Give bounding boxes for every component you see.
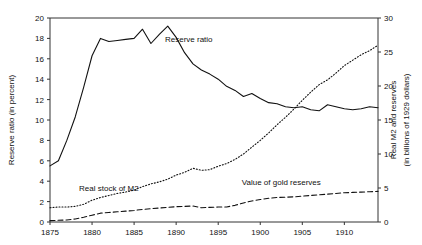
x-tick-label: 1910 xyxy=(335,228,353,237)
right-tick-label: 25 xyxy=(384,48,393,57)
tick-labels: 0246810121416182005101520253018751880188… xyxy=(35,14,393,237)
right-tick-label: 15 xyxy=(384,116,393,125)
left-tick-label: 12 xyxy=(35,96,44,105)
left-axis-title: Reserve ratio (in percent) xyxy=(7,75,16,166)
x-tick-label: 1875 xyxy=(41,228,59,237)
right-tick-label: 0 xyxy=(384,218,389,227)
left-tick-label: 14 xyxy=(35,75,44,84)
right-tick-label: 20 xyxy=(384,82,393,91)
left-tick-label: 2 xyxy=(40,198,45,207)
series-label-value-of-gold-reserves: Value of gold reserves xyxy=(242,178,321,187)
series-annotations: Reserve ratioReal stock of M2Value of go… xyxy=(79,35,321,192)
right-axis-title-line2: (in billions of 1929 dollars) xyxy=(402,73,411,166)
x-tick-label: 1880 xyxy=(83,228,101,237)
series-line-value-of-gold-reserves xyxy=(50,191,378,220)
left-tick-label: 8 xyxy=(40,136,45,145)
left-tick-label: 18 xyxy=(35,34,44,43)
x-tick-label: 1890 xyxy=(167,228,185,237)
series-label-real-stock-of-m2: Real stock of M2 xyxy=(79,184,139,193)
right-tick-label: 5 xyxy=(384,184,389,193)
left-tick-label: 20 xyxy=(35,14,44,23)
x-tick-label: 1900 xyxy=(251,228,269,237)
line-chart: Reserve ratio (in percent) Real M2 and r… xyxy=(0,0,422,245)
chart-figure: Reserve ratio (in percent) Real M2 and r… xyxy=(0,0,422,245)
x-tick-label: 1885 xyxy=(125,228,143,237)
left-tick-label: 10 xyxy=(35,116,44,125)
x-tick-label: 1895 xyxy=(209,228,227,237)
series-label-reserve-ratio: Reserve ratio xyxy=(165,35,213,44)
left-tick-label: 4 xyxy=(40,177,45,186)
right-tick-label: 30 xyxy=(384,14,393,23)
left-tick-label: 6 xyxy=(40,157,45,166)
left-tick-label: 16 xyxy=(35,55,44,64)
x-tick-label: 1905 xyxy=(293,228,311,237)
right-tick-label: 10 xyxy=(384,150,393,159)
left-tick-label: 0 xyxy=(40,218,45,227)
series-line-reserve-ratio xyxy=(50,26,378,166)
left-axis-title-text: Reserve ratio (in percent) xyxy=(7,75,16,166)
